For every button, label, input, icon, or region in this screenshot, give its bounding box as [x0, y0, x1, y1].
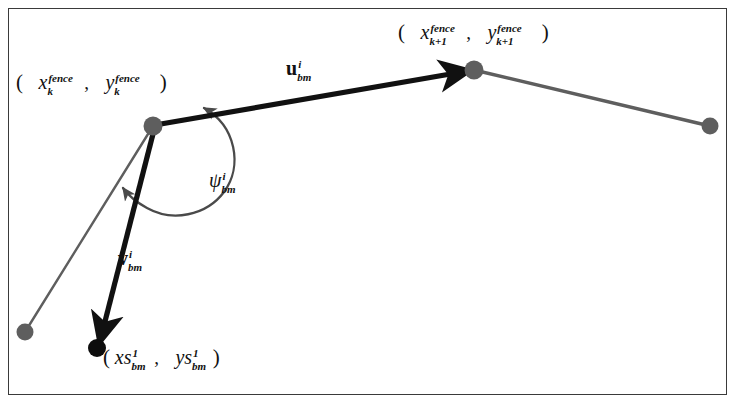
figure-root: ( xfencek , yfencek ) ( xfencek+1 , yfen…	[0, 0, 739, 403]
node-k-plus-1	[465, 61, 484, 80]
v-superscript: i	[129, 249, 132, 260]
x-subscript: k	[47, 86, 53, 97]
x-superscript: fence	[48, 73, 72, 84]
open-paren: (	[398, 20, 405, 44]
psi-subscript: bm	[221, 184, 235, 195]
segment-k-to-prev	[25, 126, 153, 332]
comma: ,	[464, 22, 472, 43]
psi-symbol: ψ	[209, 169, 221, 191]
node-group	[17, 61, 719, 358]
y-subscript: k	[114, 86, 120, 97]
angle-arc-psi	[123, 108, 234, 215]
x-superscript: fence	[430, 23, 454, 34]
diagram-canvas	[0, 0, 739, 403]
xs-subscript: bm	[131, 361, 145, 372]
node-k-plus-2	[702, 118, 719, 135]
x-subscript: k+1	[429, 36, 446, 47]
x-symbol: x	[39, 71, 48, 93]
waypoint-k-coordinate-label: ( xfencek , yfencek )	[16, 72, 167, 93]
vector-u-label: uibm	[286, 58, 310, 78]
vector-v-label: vibm	[118, 248, 141, 268]
ys-symbol: ys	[175, 346, 192, 368]
vector-v	[100, 130, 154, 341]
y-superscript: fence	[115, 73, 139, 84]
v-subscript: bm	[128, 262, 142, 273]
y-superscript: fence	[497, 23, 521, 34]
fence-path-group	[25, 70, 710, 332]
node-prev-fence	[17, 324, 34, 341]
y-subscript: k+1	[496, 36, 513, 47]
comma: ,	[152, 347, 160, 368]
x-symbol: x	[421, 21, 430, 43]
ys-superscript: 1	[193, 348, 199, 359]
y-symbol: y	[487, 21, 496, 43]
waypoint-k-plus-1-coordinate-label: ( xfencek+1 , yfencek+1 )	[398, 22, 549, 43]
open-paren: (	[103, 345, 110, 369]
open-paren: (	[16, 70, 23, 94]
vector-u	[155, 71, 468, 125]
close-paren: )	[160, 70, 167, 94]
segment-k1-to-k2	[474, 70, 710, 126]
close-paren: )	[542, 20, 549, 44]
xs-symbol: xs	[115, 346, 132, 368]
v-symbol: v	[118, 247, 128, 269]
node-k	[144, 117, 163, 136]
u-subscript: bm	[297, 72, 311, 83]
y-symbol: y	[105, 71, 114, 93]
psi-superscript: i	[222, 171, 225, 182]
angle-psi-label: ψibm	[209, 170, 234, 190]
sensor-point-coordinate-label: ( xs1bm , ys1bm )	[103, 347, 220, 368]
xs-superscript: 1	[132, 348, 138, 359]
comma: ,	[82, 72, 90, 93]
close-paren: )	[213, 345, 220, 369]
ys-subscript: bm	[192, 361, 206, 372]
bold-vector-group	[100, 71, 468, 341]
u-symbol: u	[286, 57, 297, 79]
u-superscript: i	[298, 59, 301, 70]
